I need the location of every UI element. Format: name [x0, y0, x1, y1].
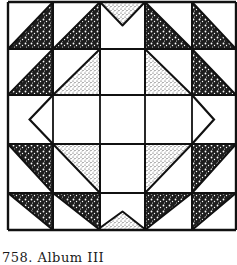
- quilt-shapes: [8, 2, 236, 230]
- quilt-triangle: [8, 49, 53, 95]
- quilt-triangle: [192, 2, 236, 49]
- quilt-triangle: [192, 144, 236, 193]
- quilt-triangle: [192, 49, 236, 95]
- quilt-triangle: [53, 193, 100, 230]
- quilt-block-diagram: [0, 0, 237, 245]
- quilt-triangle: [53, 2, 100, 49]
- quilt-triangle: [8, 193, 53, 230]
- figure-caption: 758. Album III: [2, 250, 104, 265]
- quilt-chevron-right: [192, 95, 214, 144]
- quilt-chevron-left: [30, 95, 53, 144]
- quilt-triangle: [145, 144, 192, 193]
- quilt-triangle: [145, 193, 192, 230]
- quilt-triangle: [8, 2, 53, 49]
- quilt-triangle: [145, 49, 192, 95]
- quilt-triangle: [192, 193, 236, 230]
- quilt-triangle: [8, 144, 53, 193]
- quilt-triangle-bottom: [97, 212, 146, 231]
- quilt-triangle: [53, 144, 100, 193]
- quilt-triangle-top: [100, 2, 145, 26]
- quilt-triangle: [145, 2, 192, 49]
- quilt-triangle: [53, 49, 100, 95]
